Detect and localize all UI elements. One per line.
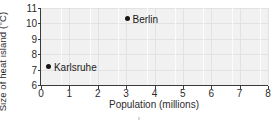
- y-tick-label: 10: [26, 18, 37, 29]
- gridline-vertical-minor: [61, 8, 62, 85]
- y-tick-label: 7: [31, 64, 37, 75]
- gridline-vertical: [183, 8, 184, 85]
- x-tick-label: 5: [180, 88, 186, 99]
- y-tick-label: 9: [31, 33, 37, 44]
- y-tick-mark: [38, 8, 41, 9]
- data-point-label-berlin: Berlin: [133, 13, 159, 24]
- y-axis-title: Size of heat island (°C): [0, 0, 16, 123]
- x-tick-label: 7: [237, 88, 243, 99]
- y-tick-label: 6: [31, 80, 37, 91]
- gridline-vertical: [98, 8, 99, 85]
- y-tick-mark: [38, 39, 41, 40]
- x-tick-label: 3: [123, 88, 129, 99]
- gridline-vertical-minor: [90, 8, 91, 85]
- y-tick-mark: [38, 23, 41, 24]
- x-tick-label: 6: [208, 88, 214, 99]
- scan-artifact-mark: [138, 117, 140, 120]
- y-tick-mark: [38, 54, 41, 55]
- gridline-vertical: [211, 8, 212, 85]
- gridline-vertical-minor: [118, 8, 119, 85]
- gridline-vertical: [268, 8, 269, 85]
- x-tick-label: 0: [38, 88, 44, 99]
- y-axis-title-text: Size of heat island (°C): [0, 12, 8, 112]
- data-point-karlsruhe[interactable]: [46, 64, 51, 69]
- plot-area: 67891011012345678KarlsruheBerlin: [40, 8, 268, 86]
- x-tick-label: 1: [67, 88, 73, 99]
- scatter-chart-figure: Size of heat island (°C) 678910110123456…: [0, 0, 274, 123]
- gridline-vertical-minor: [232, 8, 233, 85]
- y-tick-mark: [38, 70, 41, 71]
- x-tick-label: 2: [95, 88, 101, 99]
- x-axis-title: Population (millions): [40, 99, 268, 110]
- gridline-vertical: [69, 8, 70, 85]
- gridline-vertical-minor: [260, 8, 261, 85]
- gridline-vertical-minor: [175, 8, 176, 85]
- x-tick-label: 4: [152, 88, 158, 99]
- gridline-vertical-minor: [203, 8, 204, 85]
- y-tick-label: 11: [27, 3, 37, 14]
- x-tick-label: 8: [265, 88, 271, 99]
- gridline-vertical: [240, 8, 241, 85]
- data-point-label-karlsruhe: Karlsruhe: [54, 61, 97, 72]
- data-point-berlin[interactable]: [125, 16, 130, 21]
- y-tick-label: 8: [31, 49, 37, 60]
